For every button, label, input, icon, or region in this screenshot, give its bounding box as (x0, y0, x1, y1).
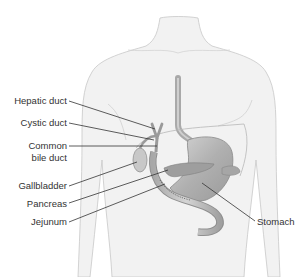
anatomy-diagram (0, 0, 307, 277)
label-jejunum: Jejunum (31, 216, 67, 228)
spleen (222, 166, 240, 175)
label-common-bile-duct-line1: Common (28, 140, 67, 152)
label-pancreas: Pancreas (27, 198, 67, 210)
label-cystic-duct: Cystic duct (21, 117, 67, 129)
label-stomach: Stomach (257, 216, 295, 228)
gallbladder (133, 148, 147, 172)
label-hepatic-duct: Hepatic duct (14, 95, 67, 107)
torso-outline (78, 17, 280, 277)
label-gallbladder: Gallbladder (18, 180, 67, 192)
common-bile-duct (156, 138, 157, 152)
label-common-bile-duct-line2: bile duct (32, 152, 67, 164)
